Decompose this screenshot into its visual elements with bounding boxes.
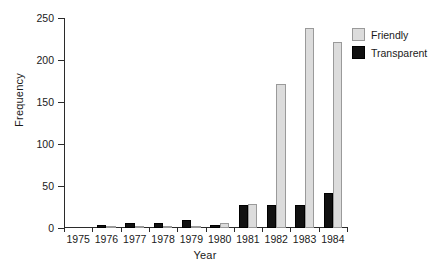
bar-friendly-1984 [333, 42, 342, 228]
bar-transparent-1978 [154, 223, 163, 228]
x-axis-tick-label: 1979 [180, 233, 203, 245]
x-axis-tick-label: 1983 [293, 233, 316, 245]
bar-friendly-1982 [276, 84, 285, 228]
plot-area [64, 18, 347, 228]
x-axis-label: Year [64, 249, 346, 261]
bar-transparent-1977 [125, 223, 134, 228]
legend-label: Transparent [371, 47, 427, 59]
bar-transparent-1984 [324, 193, 333, 228]
legend-swatch-transparent-icon [352, 46, 365, 59]
bar-friendly-1981 [248, 204, 257, 228]
bar-transparent-1979 [182, 220, 191, 228]
legend-item-friendly: Friendly [352, 28, 427, 41]
y-axis-tick-label: 100 [2, 138, 54, 150]
x-axis-tick [149, 227, 150, 232]
x-axis-tick-label: 1975 [66, 233, 89, 245]
bar-transparent-1982 [267, 205, 276, 228]
y-axis-tick-label: 250 [2, 12, 54, 24]
bar-transparent-1980 [210, 225, 219, 228]
x-axis-tick [177, 227, 178, 232]
bar-chart: Frequency 050100150200250 19751976197719… [0, 0, 430, 274]
bar-friendly-1976 [106, 226, 115, 228]
y-axis-tick-label: 50 [2, 180, 54, 192]
x-axis-tick-label: 1981 [236, 233, 259, 245]
x-axis-tick [92, 227, 93, 232]
x-axis-tick [234, 227, 235, 232]
bar-transparent-1976 [97, 225, 106, 228]
x-axis-tick [319, 227, 320, 232]
x-axis-tick [206, 227, 207, 232]
bar-friendly-1978 [163, 226, 172, 228]
bar-transparent-1981 [239, 205, 248, 228]
x-axis-tick-label: 1978 [151, 233, 174, 245]
chart-legend: FriendlyTransparent [352, 28, 427, 64]
x-axis-tick-label: 1982 [265, 233, 288, 245]
x-axis-tick [262, 227, 263, 232]
bar-friendly-1977 [135, 226, 144, 228]
x-axis-tick [121, 227, 122, 232]
x-axis-tick-label: 1977 [123, 233, 146, 245]
legend-label: Friendly [371, 29, 408, 41]
y-axis-tick-label: 200 [2, 54, 54, 66]
bar-transparent-1983 [295, 205, 304, 228]
bar-friendly-1979 [191, 226, 200, 228]
bar-friendly-1983 [305, 28, 314, 228]
bar-friendly-1980 [220, 223, 229, 228]
x-axis-tick [290, 227, 291, 232]
x-axis-tick-label: 1976 [95, 233, 118, 245]
x-axis-tick-label: 1984 [321, 233, 344, 245]
x-axis-tick-label: 1980 [208, 233, 231, 245]
x-axis-tick [64, 227, 65, 232]
legend-item-transparent: Transparent [352, 46, 427, 59]
y-axis-tick-label: 150 [2, 96, 54, 108]
legend-swatch-friendly-icon [352, 28, 365, 41]
x-axis-tick [347, 227, 348, 232]
y-axis-tick-label: 0 [2, 222, 54, 234]
